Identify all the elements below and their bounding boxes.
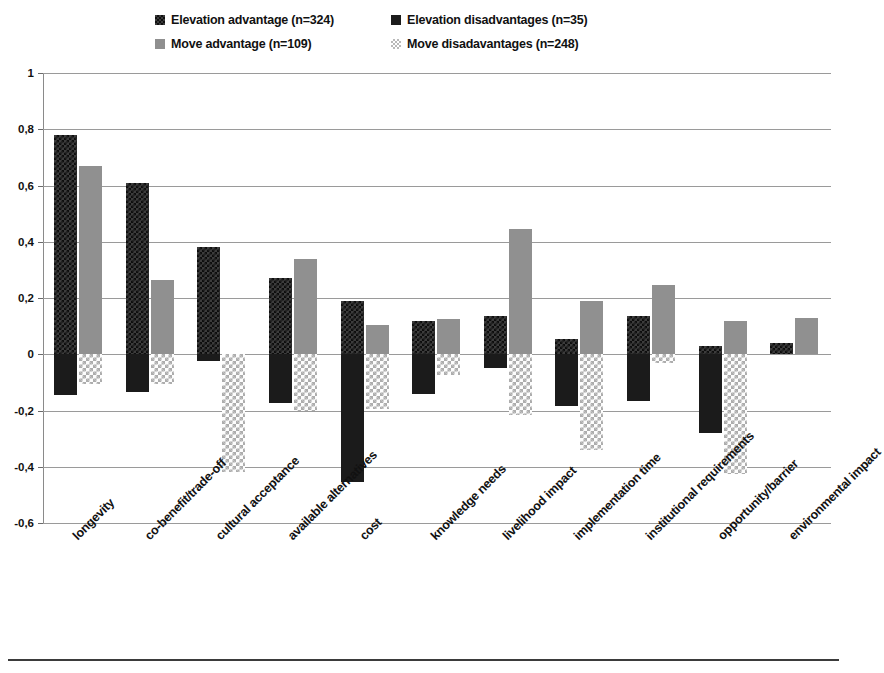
bar-move-advantage <box>652 285 675 354</box>
bar-elevation-disadvantage <box>197 354 220 361</box>
bar-move-disadvantage <box>580 354 603 450</box>
bar-move-advantage <box>509 229 532 354</box>
bar-move-advantage <box>580 301 603 354</box>
gridline <box>43 73 831 74</box>
bar-elevation-disadvantage <box>126 354 149 392</box>
y-axis-tick <box>38 129 43 130</box>
bar-elevation-advantage <box>555 339 578 354</box>
y-axis-tick <box>38 73 43 74</box>
y-axis-tick <box>38 186 43 187</box>
chart-legend: Elevation advantage (n=324) Elevation di… <box>155 8 735 56</box>
gridline <box>43 242 831 243</box>
bar-elevation-disadvantage <box>627 354 650 400</box>
legend-row-2: Move advantage (n=109) Move disadavantag… <box>155 32 735 56</box>
bar-elevation-disadvantage <box>484 354 507 368</box>
y-axis-tick-label: 0 <box>28 348 34 360</box>
legend-item-move-advantage: Move advantage (n=109) <box>155 37 391 51</box>
bar-move-disadvantage <box>437 354 460 375</box>
y-axis-tick-label: 0,4 <box>18 236 34 248</box>
bar-move-advantage <box>724 321 747 355</box>
bar-move-advantage <box>795 318 818 355</box>
bar-elevation-disadvantage <box>412 354 435 393</box>
legend-label-move-disadvantages: Move disadavantages (n=248) <box>407 37 578 51</box>
bar-move-advantage <box>437 319 460 354</box>
legend-swatch-elevation-advantage-icon <box>155 15 165 25</box>
bar-elevation-disadvantage <box>269 354 292 403</box>
gridline <box>43 129 831 130</box>
bar-move-disadvantage <box>79 354 102 384</box>
y-axis-tick <box>38 411 43 412</box>
bar-move-advantage <box>366 325 389 355</box>
legend-row-1: Elevation advantage (n=324) Elevation di… <box>155 8 735 32</box>
bar-elevation-advantage <box>484 316 507 354</box>
bar-move-disadvantage <box>366 354 389 409</box>
legend-swatch-move-advantage-icon <box>155 39 165 49</box>
plot-area: 10,80,60,40,20-0,2-0,4-0,6 <box>43 73 831 523</box>
bar-move-disadvantage <box>222 354 245 472</box>
y-axis-tick <box>38 523 43 524</box>
bar-move-disadvantage <box>294 354 317 410</box>
y-axis-tick-label: 0,8 <box>18 123 34 135</box>
y-axis-tick-label: -0,2 <box>14 405 34 417</box>
bar-elevation-advantage <box>197 247 220 354</box>
bar-elevation-advantage <box>627 316 650 354</box>
legend-item-elevation-disadvantages: Elevation disadvantages (n=35) <box>391 13 588 27</box>
legend-swatch-elevation-disadvantages-icon <box>391 15 401 25</box>
legend-label-elevation-advantage: Elevation advantage (n=324) <box>171 13 334 27</box>
y-axis-tick-label: 1 <box>28 67 34 79</box>
bar-elevation-advantage <box>412 321 435 355</box>
y-axis-tick-label: 0,6 <box>18 180 34 192</box>
bottom-rule <box>8 659 839 661</box>
bar-move-disadvantage <box>151 354 174 384</box>
legend-label-elevation-disadvantages: Elevation disadvantages (n=35) <box>407 13 588 27</box>
bar-move-advantage <box>151 280 174 355</box>
bar-move-advantage <box>294 259 317 355</box>
bar-elevation-advantage <box>269 278 292 354</box>
bar-move-disadvantage <box>652 354 675 362</box>
legend-item-elevation-advantage: Elevation advantage (n=324) <box>155 13 391 27</box>
bar-move-disadvantage <box>509 354 532 414</box>
y-axis-tick-label: -0,4 <box>14 461 34 473</box>
bar-elevation-advantage <box>699 346 722 354</box>
y-axis-tick-label: 0,2 <box>18 292 34 304</box>
bar-elevation-disadvantage <box>555 354 578 406</box>
plot-wrapper: 10,80,60,40,20-0,2-0,4-0,6 <box>0 62 847 522</box>
y-axis-tick-label: -0,6 <box>14 517 34 529</box>
y-axis-tick <box>38 354 43 355</box>
bar-elevation-advantage <box>770 343 793 354</box>
legend-swatch-move-disadvantages-icon <box>391 39 401 49</box>
gridline <box>43 186 831 187</box>
y-axis-tick <box>38 467 43 468</box>
y-axis-tick <box>38 242 43 243</box>
bar-elevation-advantage <box>126 183 149 355</box>
legend-label-move-advantage: Move advantage (n=109) <box>171 37 311 51</box>
bar-move-advantage <box>79 166 102 354</box>
y-axis-tick <box>38 298 43 299</box>
bar-elevation-advantage <box>341 301 364 354</box>
bar-elevation-advantage <box>54 135 77 354</box>
legend-item-move-disadvantages: Move disadavantages (n=248) <box>391 37 578 51</box>
bar-elevation-disadvantage <box>699 354 722 433</box>
bar-elevation-disadvantage <box>54 354 77 395</box>
